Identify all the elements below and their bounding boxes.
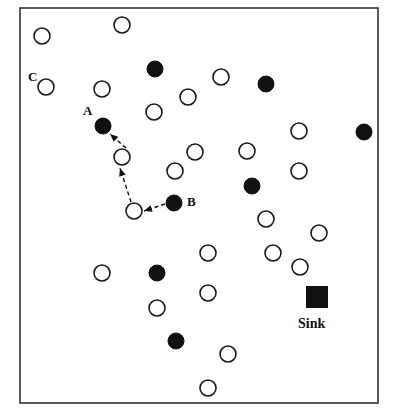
idle-node-4[interactable] (94, 81, 110, 97)
active-node-4[interactable] (244, 178, 260, 194)
idle-node-22[interactable] (220, 346, 236, 362)
figure-background (0, 0, 393, 413)
idle-node-1[interactable] (34, 28, 50, 44)
idle-node-16[interactable] (200, 245, 216, 261)
idle-node-23[interactable] (200, 380, 216, 396)
idle-node-10[interactable] (114, 149, 130, 165)
idle-node-3[interactable] (38, 79, 54, 95)
idle-node-18[interactable] (292, 259, 308, 275)
idle-node-14[interactable] (258, 211, 274, 227)
routing-diagram-canvas: ABCSink (0, 0, 393, 413)
active-node-3[interactable] (356, 124, 372, 140)
sink-node[interactable] (306, 286, 328, 308)
idle-node-15[interactable] (311, 225, 327, 241)
node-label-a: A (83, 103, 93, 118)
idle-node-12[interactable] (291, 163, 307, 179)
active-node-1[interactable] (258, 76, 274, 92)
idle-node-17[interactable] (265, 245, 281, 261)
node-label-b: B (187, 194, 196, 209)
sink-label: Sink (298, 316, 325, 331)
idle-node-7[interactable] (291, 123, 307, 139)
idle-node-5[interactable] (180, 89, 196, 105)
figure-root: ABCSink (0, 0, 393, 413)
idle-node-19[interactable] (94, 265, 110, 281)
idle-node-2[interactable] (213, 69, 229, 85)
idle-node-20[interactable] (200, 285, 216, 301)
active-node-7[interactable] (168, 333, 184, 349)
idle-node-9[interactable] (239, 143, 255, 159)
idle-node-6[interactable] (146, 104, 162, 120)
idle-node-13[interactable] (126, 203, 142, 219)
idle-node-0[interactable] (114, 17, 130, 33)
idle-node-11[interactable] (167, 163, 183, 179)
idle-node-8[interactable] (187, 144, 203, 160)
active-node-2[interactable] (95, 118, 111, 134)
node-label-c: C (28, 69, 37, 84)
active-node-5[interactable] (166, 195, 182, 211)
active-node-0[interactable] (147, 61, 163, 77)
idle-node-21[interactable] (149, 300, 165, 316)
active-node-6[interactable] (149, 265, 165, 281)
